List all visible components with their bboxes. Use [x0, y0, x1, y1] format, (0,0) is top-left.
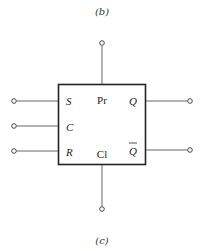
q-bar-terminal: [146, 148, 192, 153]
flipflop-diagram: (b) (c): [0, 0, 203, 251]
diagram-canvas: (b) (c): [0, 0, 203, 251]
pin-label-s: S: [66, 95, 72, 107]
preset-terminal: [100, 41, 105, 84]
top-caption: (b): [95, 6, 109, 17]
terminal-circle-icon: [188, 99, 193, 104]
pin-label-q-bar: Q: [129, 145, 137, 157]
pin-label-q: Q: [129, 95, 137, 107]
terminal-circle-icon: [12, 124, 17, 129]
bottom-caption: (c): [95, 235, 109, 246]
clock-terminal: [12, 124, 58, 129]
terminal-circle-icon: [188, 148, 193, 153]
terminal-circle-icon: [12, 149, 17, 154]
q-terminal: [146, 99, 192, 104]
pin-label-cl: Cl: [97, 148, 107, 160]
set-terminal: [12, 99, 58, 104]
pin-label-c: C: [66, 121, 74, 133]
terminal-circle-icon: [100, 41, 105, 46]
terminal-circle-icon: [100, 207, 105, 212]
reset-terminal: [12, 149, 58, 154]
pin-label-r: R: [65, 146, 73, 158]
pin-label-pr: Pr: [97, 94, 107, 106]
terminal-circle-icon: [12, 99, 17, 104]
clear-terminal: [100, 165, 105, 211]
